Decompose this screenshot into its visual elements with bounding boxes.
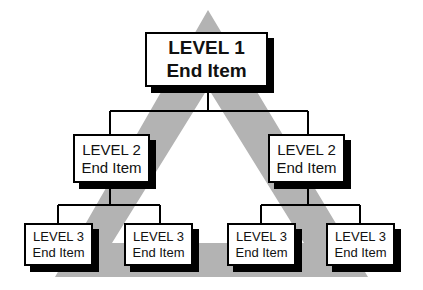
node-level3-4: LEVEL 3 End Item: [326, 223, 395, 266]
node-level1-subtitle: End Item: [166, 60, 246, 83]
node-level2-right: LEVEL 2 End Item: [268, 134, 345, 183]
node-level3-2-subtitle: End Item: [132, 245, 184, 261]
node-level3-3: LEVEL 3 End Item: [227, 223, 296, 266]
node-level3-4-title: LEVEL 3: [335, 229, 386, 245]
node-level2-right-subtitle: End Item: [276, 159, 336, 177]
node-level2-left-title: LEVEL 2: [82, 141, 141, 159]
node-level1: LEVEL 1 End Item: [145, 32, 268, 87]
node-level2-left-subtitle: End Item: [81, 159, 141, 177]
node-level2-left: LEVEL 2 End Item: [73, 134, 150, 183]
node-level3-1: LEVEL 3 End Item: [24, 223, 93, 266]
node-level3-3-subtitle: End Item: [235, 245, 287, 261]
node-level3-3-title: LEVEL 3: [236, 229, 287, 245]
node-level3-1-subtitle: End Item: [32, 245, 84, 261]
node-level3-2-title: LEVEL 3: [133, 229, 184, 245]
node-level3-1-title: LEVEL 3: [33, 229, 84, 245]
node-level1-title: LEVEL 1: [168, 37, 245, 60]
node-level3-2: LEVEL 3 End Item: [124, 223, 193, 266]
node-level2-right-title: LEVEL 2: [277, 141, 336, 159]
node-level3-4-subtitle: End Item: [334, 245, 386, 261]
